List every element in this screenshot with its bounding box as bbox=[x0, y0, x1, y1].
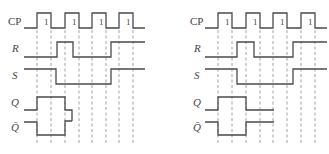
waveform-r bbox=[24, 42, 145, 57]
timing-diagram-right: CPRSQQ̄1111 bbox=[190, 13, 327, 144]
signal-label: S bbox=[194, 69, 200, 81]
waveform-qbar bbox=[24, 121, 72, 135]
waveform-q bbox=[24, 97, 72, 121]
signal-label: CP bbox=[8, 15, 21, 27]
signal-label: R bbox=[193, 42, 201, 54]
signal-label: Q̄ bbox=[193, 121, 201, 133]
pulse-number: 1 bbox=[44, 17, 49, 27]
waveform-s bbox=[24, 69, 145, 84]
pulse-number: 1 bbox=[72, 17, 77, 27]
pulse-number: 1 bbox=[308, 17, 313, 27]
waveform-qbar bbox=[205, 122, 274, 135]
timing-diagram-left: CPRSQQ̄1111 bbox=[8, 13, 145, 144]
signal-label: Q bbox=[193, 96, 201, 108]
signal-label: Q̄ bbox=[11, 121, 19, 133]
signal-label: S bbox=[12, 69, 18, 81]
waveform-q bbox=[205, 97, 274, 110]
signal-label: CP bbox=[190, 15, 203, 27]
waveform-r bbox=[205, 42, 327, 57]
pulse-number: 1 bbox=[99, 17, 104, 27]
pulse-number: 1 bbox=[126, 17, 131, 27]
pulse-number: 1 bbox=[280, 17, 285, 27]
signal-label: Q bbox=[11, 96, 19, 108]
pulse-number: 1 bbox=[253, 17, 258, 27]
timing-diagram-canvas: CPRSQQ̄1111CPRSQQ̄1111 bbox=[0, 0, 329, 154]
pulse-number: 1 bbox=[225, 17, 230, 27]
signal-label: R bbox=[11, 42, 19, 54]
waveform-s bbox=[205, 69, 327, 84]
